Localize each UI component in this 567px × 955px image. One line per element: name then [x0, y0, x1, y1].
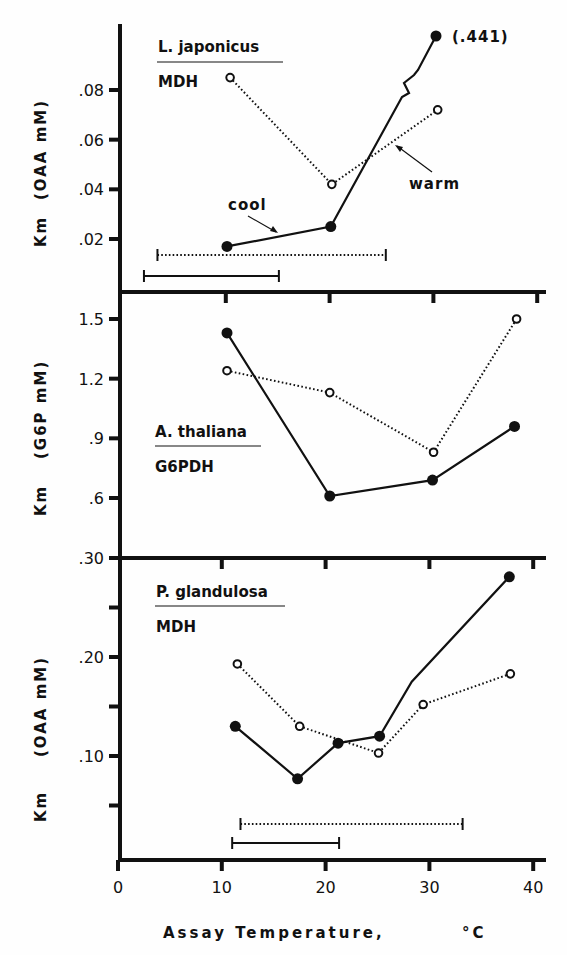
data-point-cool	[325, 221, 336, 232]
cool-arrowhead	[270, 226, 278, 233]
panel-middle-labels: A. thaliana G6PDH	[155, 423, 261, 476]
y-tick-label: .30	[79, 549, 104, 568]
series-line-cool	[227, 333, 515, 496]
panel-middle: .6.91.21.5	[79, 310, 534, 569]
enzyme-label-bottom: MDH	[156, 618, 196, 636]
data-point-cool	[221, 241, 232, 252]
y-axis-titles: Km (OAA mM) Km (G6P mM) Km (OAA mM)	[32, 99, 50, 822]
data-point-cool	[427, 475, 438, 486]
x-tick-label: 20	[315, 878, 335, 897]
panel-top: .02.04.06.08	[79, 31, 538, 304]
y-tick-label: .6	[89, 489, 104, 508]
warm-arrow	[397, 146, 432, 172]
axes-frame	[118, 24, 546, 862]
data-point-warm	[296, 723, 304, 731]
data-point-cool	[324, 491, 335, 502]
panel-bottom: .10.20.30010203040	[79, 549, 544, 897]
plot-layer: .02.04.06.08.6.91.21.5.10.20.30010203040	[79, 31, 544, 898]
chart-canvas: .02.04.06.08.6.91.21.5.10.20.30010203040…	[0, 0, 567, 955]
data-point-cool	[292, 773, 303, 784]
species-label-top: L. japonicus	[158, 38, 259, 56]
data-point-warm	[326, 389, 334, 397]
data-point-warm	[328, 181, 336, 189]
y-tick-label: .06	[79, 131, 104, 150]
species-label-middle: A. thaliana	[155, 423, 247, 441]
series-line-cool	[235, 577, 509, 779]
data-point-cool	[431, 31, 442, 42]
data-point-cool	[221, 327, 232, 338]
x-axis-unit: °C	[462, 924, 487, 942]
data-point-cool	[230, 721, 241, 732]
data-point-warm	[226, 74, 234, 82]
y-label-km-bottom: Km	[32, 791, 50, 822]
cool-label: cool	[228, 196, 267, 214]
y-tick-label: .20	[79, 648, 104, 667]
species-label-bottom: P. glandulosa	[156, 583, 268, 601]
series-line-warm	[237, 664, 510, 753]
series-line-cool	[227, 36, 436, 246]
y-tick-label: .08	[79, 81, 104, 100]
y-label-units-top: (OAA mM)	[32, 99, 50, 200]
panel-bottom-labels: P. glandulosa MDH	[155, 583, 285, 636]
x-tick-label: 10	[212, 878, 232, 897]
y-tick-label: .9	[89, 429, 104, 448]
figure: .02.04.06.08.6.91.21.5.10.20.30010203040…	[0, 0, 567, 955]
y-tick-label: 1.2	[79, 370, 104, 389]
enzyme-label-top: MDH	[158, 73, 198, 91]
data-point-warm	[434, 106, 442, 114]
y-tick-label: .04	[79, 180, 104, 199]
y-label-km-top: Km	[32, 216, 50, 247]
data-point-warm	[430, 448, 438, 456]
series-line-warm	[227, 319, 517, 452]
y-tick-label: .10	[79, 747, 104, 766]
data-point-warm	[223, 367, 231, 375]
data-point-cool	[374, 731, 385, 742]
data-point-warm	[375, 749, 383, 757]
x-tick-label: 30	[419, 878, 439, 897]
data-point-warm	[507, 670, 515, 678]
data-point-warm	[513, 315, 521, 323]
y-label-units-middle: (G6P mM)	[32, 360, 50, 459]
x-tick-label: 40	[523, 878, 543, 897]
y-label-km-middle: Km	[32, 485, 50, 516]
enzyme-label-middle: G6PDH	[155, 458, 214, 476]
data-point-cool	[509, 421, 520, 432]
data-point-cool	[504, 571, 515, 582]
offscale-value-label: (.441)	[452, 28, 509, 46]
data-point-warm	[234, 660, 242, 668]
warm-arrowhead	[395, 145, 403, 152]
y-tick-label: 1.5	[79, 310, 104, 329]
x-axis-title: Assay Temperature,	[163, 924, 385, 942]
x-tick-label: 0	[113, 878, 123, 897]
warm-label: warm	[409, 175, 460, 193]
y-tick-label: .02	[79, 230, 104, 249]
data-point-warm	[419, 701, 427, 709]
y-label-units-bottom: (OAA mM)	[32, 656, 50, 757]
